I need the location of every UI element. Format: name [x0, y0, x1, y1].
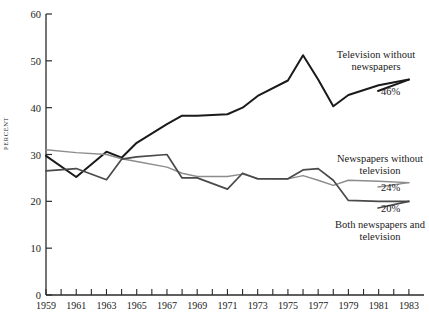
x-tick-label: 1965 — [127, 300, 147, 311]
annotation-both-line2: television — [360, 231, 402, 242]
y-tick-label: 60 — [31, 9, 42, 20]
y-tick-label: 30 — [31, 150, 42, 161]
chart-plot-area: 0102030405060 19591961196319651967196919… — [0, 0, 429, 325]
y-tick-label: 50 — [31, 56, 42, 67]
x-tick-label: 1981 — [369, 300, 389, 311]
y-tick-label: 40 — [31, 103, 42, 114]
annotation-news-line2: television — [360, 165, 402, 176]
annotation-television-without-newspapers: Television without newspapers 46% — [337, 49, 415, 97]
y-tick-label: 20 — [31, 196, 42, 207]
x-tick-label: 1959 — [36, 300, 56, 311]
x-axis-ticks — [46, 289, 409, 295]
data-series-group — [46, 55, 409, 201]
annotation-tv-value: 46% — [381, 86, 401, 97]
annotation-tv-line1: Television without — [337, 49, 415, 60]
y-tick-label: 10 — [31, 243, 42, 254]
y-axis-ticks — [46, 14, 52, 295]
y-axis-tick-labels: 0102030405060 — [31, 9, 42, 301]
x-tick-label: 1969 — [187, 300, 207, 311]
line-chart-media-usage: PERCENT 0102030405060 195919611963196519… — [0, 0, 429, 325]
x-tick-label: 1977 — [308, 300, 328, 311]
x-tick-label: 1963 — [96, 300, 116, 311]
x-axis: 1959196119631965196719691971197319751977… — [36, 289, 424, 311]
annotation-both-line1: Both newspapers and — [335, 219, 426, 230]
annotation-both-newspapers-and-television: 20% Both newspapers and television — [335, 203, 426, 242]
x-tick-label: 1975 — [278, 300, 298, 311]
x-tick-label: 1961 — [66, 300, 86, 311]
x-tick-label: 1967 — [157, 300, 177, 311]
annotation-news-line1: Newspapers without — [337, 153, 423, 164]
annotation-news-value: 24% — [381, 182, 401, 193]
x-tick-label: 1971 — [217, 300, 237, 311]
x-axis-tick-labels: 1959196119631965196719691971197319751977… — [36, 300, 419, 311]
y-axis: 0102030405060 — [31, 9, 53, 301]
x-tick-label: 1973 — [248, 300, 268, 311]
x-tick-label: 1979 — [338, 300, 358, 311]
annotation-tv-line2: newspapers — [352, 61, 401, 72]
annotation-newspapers-without-television: Newspapers without television 24% — [337, 153, 423, 193]
annotation-both-value: 20% — [381, 203, 401, 214]
x-tick-label: 1983 — [399, 300, 419, 311]
